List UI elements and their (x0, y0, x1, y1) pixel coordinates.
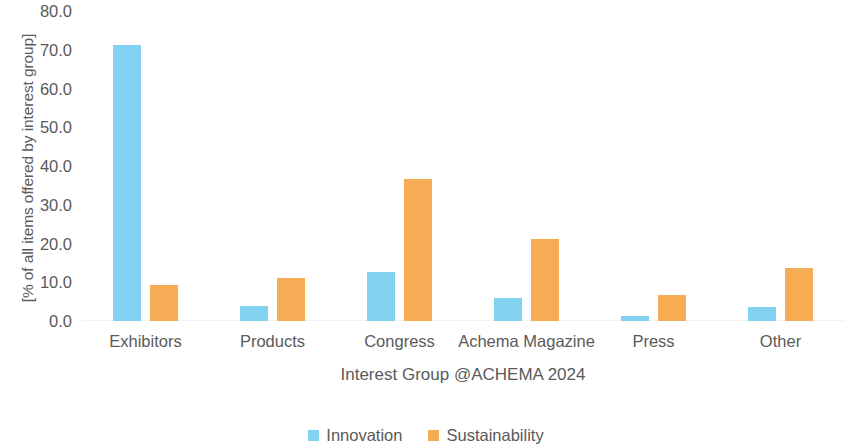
y-axis-tick-labels: 80.070.060.050.040.030.020.010.00.0 (0, 0, 78, 340)
bar-innovation-other (748, 307, 776, 321)
x-axis-tick-label: Achema Magazine (458, 330, 595, 352)
bar-sustainability-other (785, 268, 813, 321)
bar-innovation-products (240, 306, 268, 321)
bar-group (240, 11, 305, 321)
bar-innovation-congress (367, 272, 395, 321)
y-axis-tick-label: 50.0 (0, 119, 72, 136)
y-axis-tick-label: 80.0 (0, 3, 72, 20)
bar-group (367, 11, 432, 321)
x-axis-tick-label: Products (240, 330, 305, 352)
y-axis-tick-label: 0.0 (0, 313, 72, 330)
bar-sustainability-products (277, 278, 305, 321)
y-axis-tick-label: 20.0 (0, 235, 72, 252)
bar-innovation-exhibitors (113, 45, 141, 321)
bar-innovation-press (621, 316, 649, 321)
x-axis-tick-label: Other (760, 330, 801, 352)
y-axis-tick-label: 70.0 (0, 42, 72, 59)
bar-innovation-achema-magazine (494, 298, 522, 321)
y-axis-tick-label: 30.0 (0, 197, 72, 214)
legend-label: Innovation (326, 426, 402, 444)
chart-legend: InnovationSustainability (0, 424, 852, 446)
x-axis-tick-label: Exhibitors (109, 330, 181, 352)
plot-area (82, 11, 844, 321)
x-axis-tick-labels: ExhibitorsProductsCongressAchema Magazin… (82, 330, 844, 356)
y-axis-tick-label: 40.0 (0, 158, 72, 175)
bar-group (113, 11, 178, 321)
legend-label: Sustainability (446, 426, 543, 444)
y-axis-tick-label: 60.0 (0, 80, 72, 97)
bar-chart: [% of all items offered by interest grou… (0, 0, 852, 447)
bar-group (621, 11, 686, 321)
bar-sustainability-press (658, 295, 686, 321)
x-axis-tick-label: Press (632, 330, 674, 352)
y-axis-tick-label: 10.0 (0, 274, 72, 291)
x-axis-tick-label: Congress (364, 330, 435, 352)
bar-group (494, 11, 559, 321)
x-axis-baseline (82, 320, 844, 321)
legend-item-innovation[interactable]: Innovation (308, 426, 402, 444)
bar-sustainability-exhibitors (150, 285, 178, 321)
bar-group (748, 11, 813, 321)
bar-sustainability-achema-magazine (531, 239, 559, 321)
x-axis-title: Interest Group @ACHEMA 2024 (82, 363, 844, 387)
legend-swatch-innovation-icon (308, 430, 319, 441)
bar-sustainability-congress (404, 179, 432, 321)
legend-item-sustainability[interactable]: Sustainability (428, 426, 543, 444)
legend-swatch-sustainability-icon (428, 430, 439, 441)
